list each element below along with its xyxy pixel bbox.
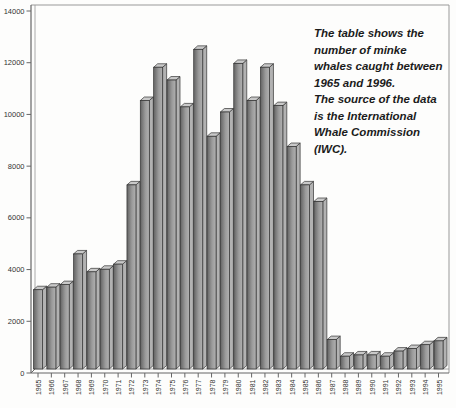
x-axis-label-1995: 1995 [436, 379, 443, 395]
y-axis-label: 2000 [8, 317, 25, 326]
bar-1972 [127, 181, 140, 369]
bar-1988 [341, 353, 354, 369]
bar-1975 [167, 77, 180, 369]
bar-1976 [180, 103, 193, 369]
x-axis-label-1982: 1982 [262, 379, 269, 395]
bar-1989 [354, 351, 367, 369]
bar-side-face [83, 250, 87, 369]
x-axis-label-1965: 1965 [35, 379, 42, 395]
bar-1990 [367, 351, 380, 369]
bar-front-face [274, 106, 283, 369]
bar-front-face [287, 147, 296, 369]
x-axis-label-1976: 1976 [182, 379, 189, 395]
x-axis-label-1987: 1987 [329, 379, 336, 395]
bar-1974 [154, 64, 167, 369]
x-axis-label-1971: 1971 [115, 379, 122, 395]
bar-1979 [220, 109, 233, 369]
bar-side-face [229, 109, 233, 369]
x-axis-label-1969: 1969 [88, 379, 95, 395]
x-axis-label-1984: 1984 [289, 379, 296, 395]
x-axis-label-1966: 1966 [48, 379, 55, 395]
bar-1991 [381, 353, 394, 369]
bar-side-face [189, 103, 193, 369]
bar-front-face [367, 355, 376, 369]
bar-front-face [167, 80, 176, 369]
bar-1986 [314, 198, 327, 369]
bar-front-face [87, 272, 96, 369]
bar-1994 [421, 341, 434, 369]
bar-side-face [136, 181, 140, 369]
bar-1971 [114, 261, 127, 369]
bar-side-face [336, 336, 340, 369]
y-axis-label: 0 [20, 369, 24, 378]
bar-1982 [260, 64, 273, 369]
bar-front-face [60, 285, 69, 369]
bar-side-face [109, 266, 113, 369]
bar-1992 [394, 348, 407, 369]
y-axis-label: 6000 [8, 213, 25, 222]
bar-front-face [247, 101, 256, 370]
bar-front-face [34, 290, 43, 369]
bar-side-face [56, 284, 60, 369]
x-axis-label-1985: 1985 [302, 379, 309, 395]
bar-front-face [207, 136, 216, 369]
bar-front-face [314, 202, 323, 369]
x-axis-label-1979: 1979 [222, 379, 229, 395]
bar-front-face [47, 287, 56, 369]
bar-1993 [407, 345, 420, 369]
x-axis-label-1973: 1973 [142, 379, 149, 395]
x-axis-label-1970: 1970 [102, 379, 109, 395]
bar-1981 [247, 97, 260, 369]
bar-front-face [381, 356, 390, 369]
chart-caption: The table shows the number of minke whal… [314, 25, 452, 157]
bar-front-face [421, 345, 430, 369]
bar-1970 [100, 266, 113, 369]
bar-1966 [47, 284, 60, 369]
bar-1995 [434, 337, 447, 369]
bar-1980 [234, 60, 247, 369]
bar-side-face [310, 181, 314, 369]
y-axis-label: 10000 [4, 110, 25, 119]
bar-front-face [301, 185, 310, 369]
bar-side-face [443, 337, 447, 369]
x-axis-label-1977: 1977 [195, 379, 202, 395]
bar-side-face [96, 268, 100, 369]
x-axis-label-1972: 1972 [128, 379, 135, 395]
whale-catch-figure: 0200040006000800010000120001400019651966… [0, 0, 456, 408]
bar-side-face [243, 60, 247, 369]
bar-side-face [216, 133, 220, 369]
bar-front-face [220, 112, 229, 369]
bar-side-face [203, 46, 207, 369]
bar-1984 [287, 143, 300, 369]
bar-1978 [207, 133, 220, 369]
x-axis-label-1980: 1980 [235, 379, 242, 395]
y-axis-label: 4000 [8, 265, 25, 274]
bar-front-face [434, 341, 443, 369]
bar-front-face [74, 254, 83, 369]
bar-front-face [260, 67, 269, 369]
bar-1969 [87, 268, 100, 369]
y-axis-label: 14000 [4, 7, 25, 16]
x-axis-label-1989: 1989 [355, 379, 362, 395]
bar-side-face [256, 97, 260, 369]
bar-1987 [327, 336, 340, 369]
y-axis-label: 8000 [8, 162, 25, 171]
x-axis-label-1974: 1974 [155, 379, 162, 395]
bar-front-face [154, 67, 163, 369]
bar-front-face [140, 101, 149, 370]
x-axis-label-1991: 1991 [382, 379, 389, 395]
bar-side-face [416, 345, 420, 369]
x-axis-label-1981: 1981 [249, 379, 256, 395]
x-axis-label-1990: 1990 [369, 379, 376, 395]
bar-front-face [194, 49, 203, 369]
bar-front-face [341, 356, 350, 369]
bar-front-face [407, 349, 416, 369]
x-axis-label-1983: 1983 [275, 379, 282, 395]
x-axis-label-1975: 1975 [169, 379, 176, 395]
bar-1985 [301, 181, 314, 369]
bar-front-face [354, 355, 363, 369]
bar-front-face [127, 185, 136, 369]
bar-front-face [114, 264, 123, 369]
bar-side-face [69, 281, 73, 369]
bar-side-face [430, 341, 434, 369]
